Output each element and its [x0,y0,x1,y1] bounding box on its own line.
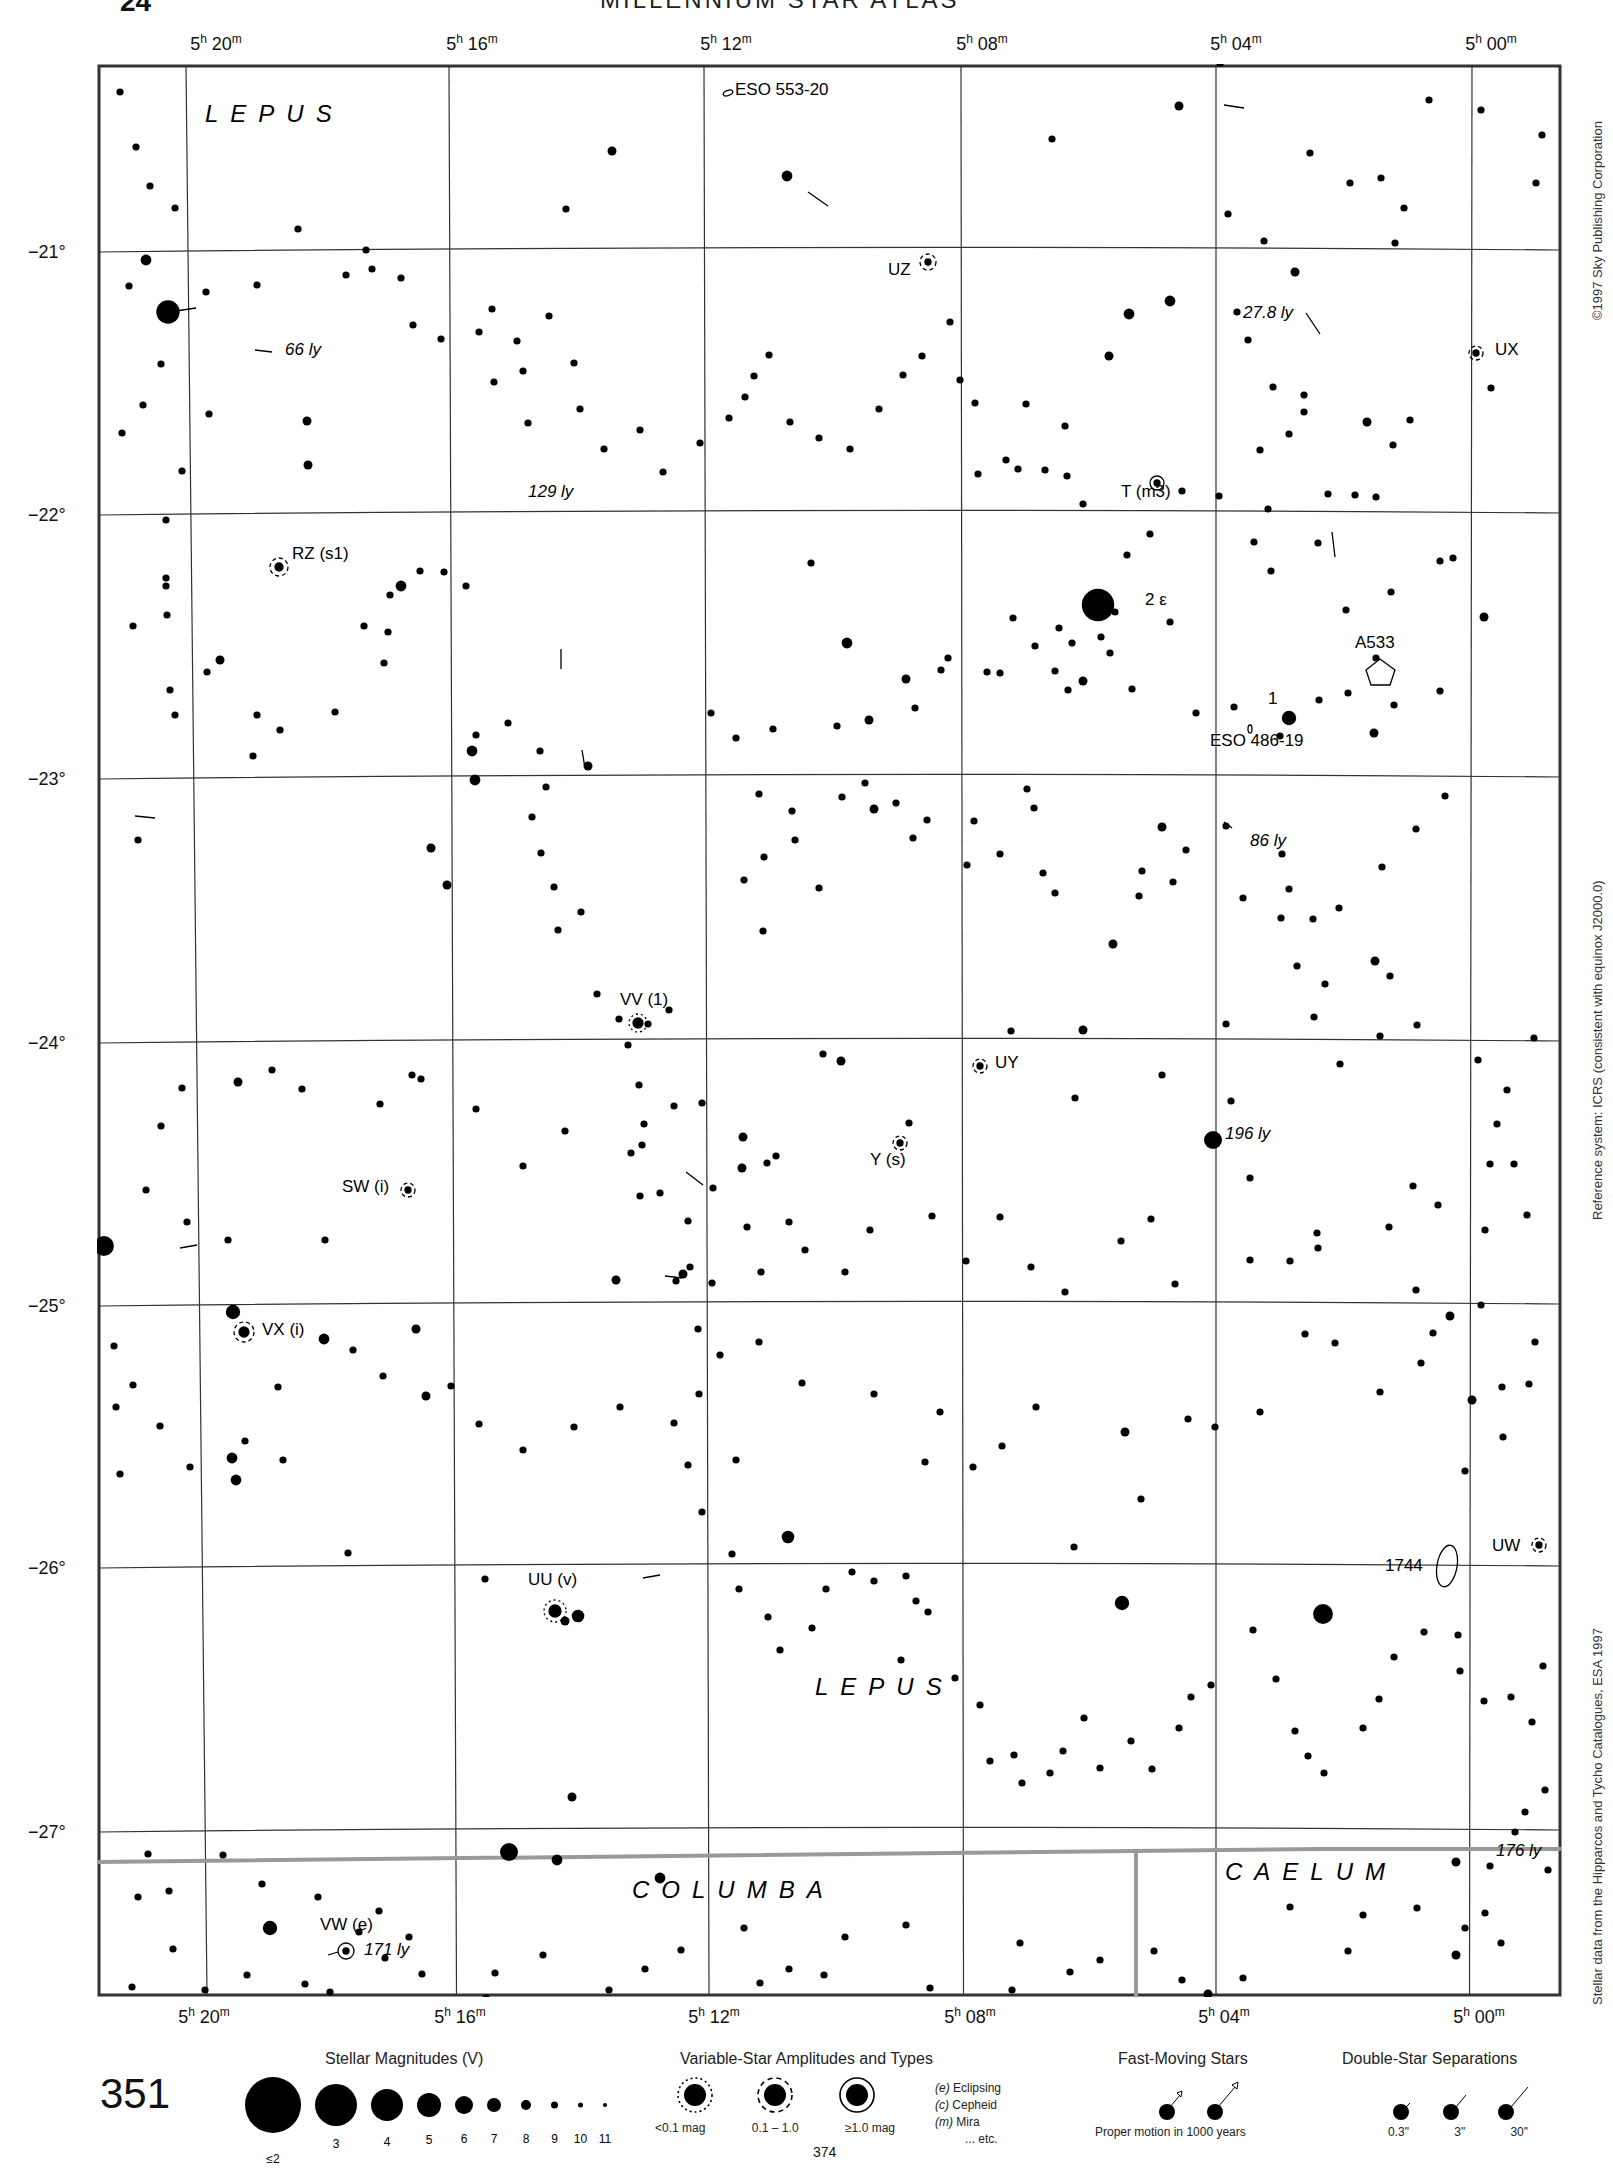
object-label: UX [1495,340,1519,359]
legend-variables-title: Variable-Star Amplitudes and Types [680,2050,933,2068]
object-label: 1 [1268,689,1277,708]
amp-label: <0.1 mag [655,2121,705,2135]
ra-label: 5h 00m [1453,2005,1505,2028]
page-number: 351 [100,2070,170,2118]
object-label: ESO 553-20 [735,80,829,99]
legend-magnitudes: Stellar Magnitudes (V) [325,2050,483,2068]
object-label: 171 ly [364,1940,411,1959]
cluster-1744 [1434,1544,1461,1589]
double-star-symbols [1380,2075,1530,2125]
object-label: UU (v) [528,1570,577,1589]
constellation-name: CAELUM [1225,1858,1397,1885]
constellation-names: LEPUSLEPUSCOLUMBACAELUM [205,100,1397,1903]
object-label: 1744 [1385,1556,1423,1575]
ra-label: 5h 04m [1198,2005,1250,2028]
object-label: UZ [888,260,911,279]
ra-label: 5h 08m [956,32,1008,55]
object-label: 196 ly [1225,1124,1272,1143]
constellation-name: LEPUS [815,1673,954,1700]
ra-label: 5h 08m [944,2005,996,2028]
ra-label: 5h 20m [190,32,242,55]
object-label: UW [1492,1536,1520,1555]
copyright-note: ©1997 Sky Publishing Corporation [1590,121,1605,320]
constellation-name: COLUMBA [632,1876,835,1903]
next-page-link[interactable]: 374 [813,2144,836,2160]
variable-amplitude-labels: <0.1 mag 0.1 – 1.0 ≥1.0 mag [655,2121,895,2135]
object-label: T (m3) [1121,482,1171,501]
object-label: 2 ε [1145,590,1167,609]
magnitude-label: 9 [551,2132,558,2146]
ra-label: 5h 16m [446,32,498,55]
object-label: SW (i) [342,1177,389,1196]
object-label: 129 ly [528,482,575,501]
dec-label: −22° [28,505,66,526]
ra-label: 5h 12m [688,2005,740,2028]
proper-motion-symbols [1140,2075,1260,2125]
legend-fast-moving: Fast-Moving Stars [1118,2050,1248,2068]
ra-label: 5h 16m [434,2005,486,2028]
magnitude-label: ≤2 [266,2152,280,2166]
magnitude-label: 6 [461,2132,468,2146]
variable-amplitude-symbols [660,2075,880,2115]
dec-label: −26° [28,1558,66,1579]
object-label: 176 ly [1496,1841,1543,1860]
atlas-page-header-number: 24 [120,0,151,18]
object-label: VX (i) [262,1320,305,1339]
dec-label: −23° [28,769,66,790]
legend-magnitudes-title: Stellar Magnitudes (V) [325,2050,483,2068]
ra-label: 5h 12m [700,32,752,55]
legend-variables: Variable-Star Amplitudes and Types [680,2050,933,2068]
object-label: UY [995,1053,1019,1072]
object-label: RZ (s1) [292,544,349,563]
legend-doubles-title: Double-Star Separations [1342,2050,1517,2068]
ra-label: 5h 00m [1465,32,1517,55]
object-label: VV (1) [620,990,668,1009]
magnitude-label: 4 [384,2135,391,2149]
double-star-labels: 0.3" 3" 30" [1388,2125,1528,2139]
atlas-title: MILLENNIUM STAR ATLAS [600,0,960,14]
magnitude-label: 10 [574,2132,588,2146]
amp-label: 0.1 – 1.0 [752,2121,799,2135]
reference-system-note: Reference system: ICRS (consistent with … [1590,880,1605,1220]
dec-label: −24° [28,1033,66,1054]
magnitude-label: 5 [426,2133,433,2147]
dec-label: −25° [28,1296,66,1317]
magnitude-scale: ≤234567891011 [225,2075,625,2170]
variable-type-list: (e) Eclipsing (c) Cepheid (m) Mira ... e… [935,2080,1001,2148]
legend-doubles: Double-Star Separations [1342,2050,1517,2068]
proper-motion-vectors [135,105,1335,1955]
data-source-note: Stellar data from the Hipparcos and Tych… [1590,1628,1605,2005]
object-label: 86 ly [1250,831,1287,850]
planetary-nebula-a533 [1366,659,1395,685]
object-label: Y (s) [870,1150,906,1169]
dec-label: −21° [28,242,66,263]
magnitude-label: 11 [599,2132,612,2146]
star-chart[interactable]: ESO 553-20UZ27.8 lyUX66 ly129 lyT (m3)RZ… [97,64,1562,1997]
amp-label: ≥1.0 mag [845,2121,895,2135]
legend-fast-moving-title: Fast-Moving Stars [1118,2050,1248,2068]
ra-label: 5h 04m [1210,32,1262,55]
object-label: 66 ly [285,340,322,359]
galaxy-eso-553-20 [722,89,733,97]
magnitude-label: 7 [491,2132,498,2146]
object-label: 27.8 ly [1242,303,1295,322]
magnitude-label: 3 [333,2137,340,2151]
proper-motion-caption: Proper motion in 1000 years [1095,2125,1246,2139]
ra-label: 5h 20m [178,2005,230,2028]
constellation-name: LEPUS [205,100,344,127]
dec-label: −27° [28,1822,66,1843]
magnitude-label: 8 [523,2132,530,2146]
object-label: ESO 486-19 [1210,731,1304,750]
object-label: VW (e) [320,1915,373,1934]
object-label: A533 [1355,633,1395,652]
